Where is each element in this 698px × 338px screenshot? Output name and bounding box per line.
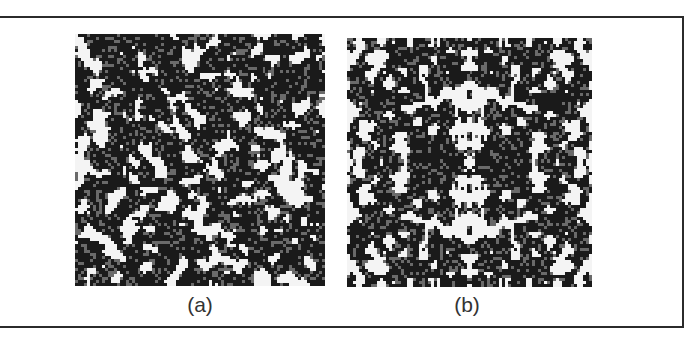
texture-image-b [347,38,592,287]
pattern-panel-b [347,38,592,287]
panel-label-a: (a) [170,293,230,317]
texture-image-a [75,34,325,286]
panel-label-b: (b) [437,293,497,317]
pattern-panel-a [75,34,325,286]
